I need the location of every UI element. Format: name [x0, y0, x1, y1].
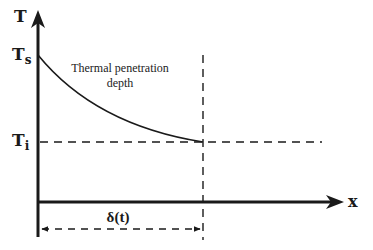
- penetration-depth-label: δ(t): [107, 209, 130, 226]
- x-axis: [37, 195, 344, 209]
- surface-temperature-label: Ts: [12, 44, 32, 67]
- annotation-line-2: depth: [107, 76, 134, 90]
- annotation-line-1: Thermal penetration: [71, 61, 169, 75]
- initial-temperature-label: Ti: [12, 130, 30, 153]
- thermal-penetration-diagram: T x Ts Ti Thermal penetration depth δ(t): [0, 0, 373, 250]
- y-axis-label: T: [14, 6, 27, 26]
- x-axis-label: x: [348, 192, 358, 211]
